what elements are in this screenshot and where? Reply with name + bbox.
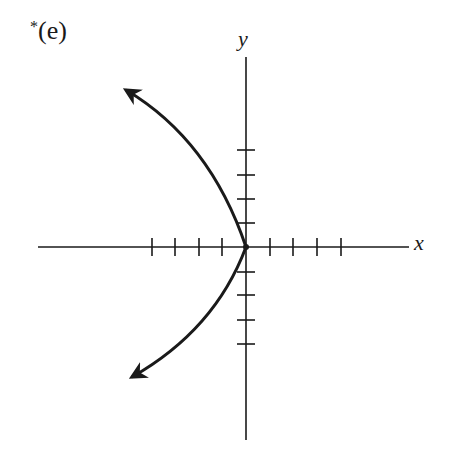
vertex-point bbox=[243, 244, 249, 250]
parabola-curve bbox=[126, 90, 246, 377]
graph bbox=[0, 0, 455, 453]
